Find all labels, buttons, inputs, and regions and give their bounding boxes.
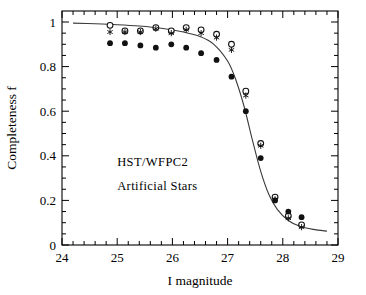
data-point-filled-circle: [153, 45, 159, 51]
data-point-filled-circle: [107, 40, 113, 46]
y-tick-label: 1: [50, 15, 57, 30]
x-tick-label: 29: [332, 250, 345, 265]
y-tick-label: 0.2: [40, 193, 56, 208]
y-axis-tick-labels: 00.20.40.60.81: [40, 15, 57, 253]
data-point-filled-circle: [285, 209, 291, 215]
data-point-star: [229, 47, 234, 53]
data-points: [107, 22, 304, 230]
data-point-filled-circle: [214, 57, 220, 63]
data-point-filled-circle: [183, 45, 189, 51]
y-tick-label: 0: [50, 238, 57, 253]
y-tick-label: 0.4: [40, 148, 57, 163]
axis-ticks: [62, 11, 338, 245]
completeness-chart-figure: 242526272829 00.20.40.60.81 HST/WFPC2Art…: [0, 0, 366, 295]
y-tick-label: 0.8: [40, 59, 56, 74]
plot-annotation: Artificial Stars: [117, 179, 197, 193]
x-tick-label: 26: [166, 250, 180, 265]
data-point-filled-circle: [122, 40, 128, 46]
data-point-filled-circle: [168, 41, 174, 47]
x-tick-label: 27: [221, 250, 235, 265]
data-point-open-circle: [107, 22, 113, 28]
plot-frame: [62, 11, 338, 245]
x-tick-label: 25: [111, 250, 124, 265]
y-tick-label: 0.6: [40, 104, 57, 119]
data-point-open-circle: [229, 41, 235, 47]
data-point-filled-circle: [258, 155, 264, 161]
data-point-filled-circle: [137, 43, 143, 49]
x-axis-title: I magnitude: [168, 273, 233, 288]
plot-annotation: HST/WFPC2: [117, 155, 188, 169]
data-point-filled-circle: [243, 108, 249, 114]
completeness-scatter-plot: 242526272829 00.20.40.60.81 HST/WFPC2Art…: [0, 0, 366, 295]
data-point-filled-circle: [272, 198, 278, 204]
x-tick-label: 28: [276, 250, 289, 265]
x-axis-tick-labels: 242526272829: [56, 250, 345, 265]
y-axis-title: Completeness f: [4, 86, 19, 170]
data-point-filled-circle: [299, 214, 305, 220]
data-point-star: [107, 29, 112, 35]
data-point-filled-circle: [229, 74, 235, 80]
x-tick-label: 24: [56, 250, 70, 265]
plot-annotations: HST/WFPC2Artificial Stars: [117, 155, 197, 194]
data-point-filled-circle: [198, 50, 204, 56]
